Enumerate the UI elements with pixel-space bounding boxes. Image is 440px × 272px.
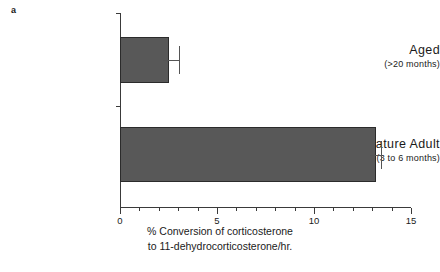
errorbar-cap xyxy=(179,46,180,74)
x-axis-minor-tick xyxy=(236,208,237,211)
errorbar-whisker xyxy=(163,60,180,61)
x-axis-minor-tick xyxy=(353,208,354,211)
x-axis-line xyxy=(120,207,411,208)
x-axis-major-tick xyxy=(120,208,121,214)
x-axis-minor-tick xyxy=(139,208,140,211)
plot-area: 051015 xyxy=(120,13,411,207)
panel-label: a xyxy=(11,6,16,15)
x-axis-title: % Conversion of corticosterone to 11-deh… xyxy=(0,224,440,254)
x-axis-minor-tick xyxy=(275,208,276,211)
x-axis-minor-tick xyxy=(392,208,393,211)
y-axis-top-tick xyxy=(116,13,121,14)
x-axis-minor-tick xyxy=(159,208,160,211)
x-axis-minor-tick xyxy=(372,208,373,211)
x-axis-minor-tick xyxy=(178,208,179,211)
bar-mature-adult xyxy=(120,127,376,182)
figure-panel-a: a Aged (>20 months) Mature Adult (3 to 6… xyxy=(0,0,440,272)
bar-aged xyxy=(120,37,169,83)
x-axis-title-line-2: to 11-dehydrocorticosterone/hr. xyxy=(0,239,440,254)
y-axis-tick xyxy=(116,106,121,107)
x-axis-major-tick xyxy=(411,208,412,214)
errorbar-whisker xyxy=(370,155,381,156)
errorbar-cap xyxy=(381,141,382,169)
x-axis-minor-tick xyxy=(333,208,334,211)
x-axis-title-line-1: % Conversion of corticosterone xyxy=(0,224,440,239)
x-axis-major-tick xyxy=(314,208,315,214)
x-axis-minor-tick xyxy=(295,208,296,211)
x-axis-minor-tick xyxy=(256,208,257,211)
x-axis-major-tick xyxy=(217,208,218,214)
x-axis-minor-tick xyxy=(198,208,199,211)
